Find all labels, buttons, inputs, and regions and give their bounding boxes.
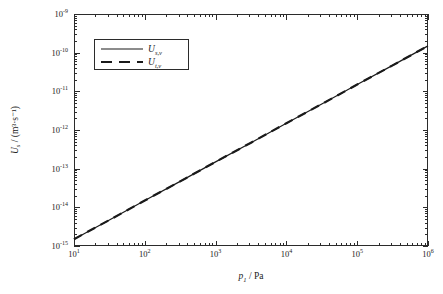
x-minor-tick <box>341 243 342 246</box>
x-minor-tick <box>129 243 130 246</box>
x-tick-label: 103 <box>210 250 222 259</box>
x-minor-tick <box>407 243 408 246</box>
x-tick-label: 105 <box>351 250 363 259</box>
y-minor-tick <box>74 139 77 140</box>
x-minor-tick-top <box>354 14 355 17</box>
y-minor-tick <box>74 209 77 210</box>
legend-swatch-solid <box>101 44 143 54</box>
y-minor-tick <box>74 211 77 212</box>
x-minor-tick-top <box>417 14 418 17</box>
y-minor-tick-right <box>425 211 428 212</box>
y-minor-tick-right <box>425 112 428 113</box>
x-minor-tick-top <box>200 14 201 17</box>
x-minor-tick-top <box>400 14 401 17</box>
x-minor-tick-top <box>129 14 130 17</box>
x-major-tick-top <box>216 14 217 20</box>
y-minor-tick-right <box>425 170 428 171</box>
y-minor-tick <box>74 175 77 176</box>
y-minor-tick-right <box>425 61 428 62</box>
x-minor-tick-top <box>179 14 180 17</box>
x-minor-tick <box>117 243 118 246</box>
x-minor-tick-top <box>320 14 321 17</box>
y-minor-tick-right <box>425 29 428 30</box>
figure-canvas: 101102103104105106 10-910-1010-1110-1210… <box>0 0 443 294</box>
x-minor-tick-top <box>142 14 143 17</box>
y-minor-tick-right <box>425 34 428 35</box>
x-minor-tick-top <box>95 14 96 17</box>
y-minor-tick <box>74 134 77 135</box>
y-minor-tick <box>74 95 77 96</box>
y-tick-label: 10-13 <box>30 164 68 173</box>
x-axis-symbol: p1 <box>239 271 247 281</box>
x-minor-tick-top <box>258 14 259 17</box>
y-major-tick-right <box>423 246 429 247</box>
y-major-tick-right <box>423 14 429 15</box>
y-minor-tick-right <box>425 103 428 104</box>
y-major-tick <box>74 91 80 92</box>
y-minor-tick-right <box>425 177 428 178</box>
x-tick-label: 102 <box>139 250 151 259</box>
y-minor-tick <box>74 136 77 137</box>
y-minor-tick-right <box>425 132 428 133</box>
x-minor-tick-top <box>123 14 124 17</box>
x-minor-tick <box>166 243 167 246</box>
y-axis-symbol: Us <box>10 145 20 154</box>
y-minor-tick <box>74 56 77 57</box>
y-minor-tick-right <box>425 18 428 19</box>
x-minor-tick <box>108 243 109 246</box>
y-minor-tick-right <box>425 172 428 173</box>
x-minor-tick <box>187 243 188 246</box>
x-major-tick-top <box>428 14 429 20</box>
y-minor-tick <box>74 112 77 113</box>
y-minor-tick <box>74 228 77 229</box>
y-tick-label: 10-14 <box>30 203 68 212</box>
y-minor-tick-right <box>425 73 428 74</box>
y-axis-title: Us / (m³·s⁻¹) <box>9 106 20 154</box>
y-major-tick <box>74 246 80 247</box>
x-minor-tick-top <box>205 14 206 17</box>
x-minor-tick <box>354 243 355 246</box>
y-major-tick-right <box>423 91 429 92</box>
y-minor-tick <box>74 196 77 197</box>
x-minor-tick-top <box>346 14 347 17</box>
y-major-tick <box>74 14 80 15</box>
x-minor-tick-top <box>336 14 337 17</box>
y-minor-tick-right <box>425 145 428 146</box>
x-minor-tick <box>280 243 281 246</box>
y-minor-tick-right <box>425 41 428 42</box>
y-tick-label: 10-15 <box>30 242 68 251</box>
x-minor-tick <box>200 243 201 246</box>
legend-item-0: Us,v <box>95 42 188 56</box>
x-minor-tick <box>336 243 337 246</box>
x-minor-tick-top <box>329 14 330 17</box>
y-minor-tick <box>74 150 77 151</box>
y-minor-tick-right <box>425 216 428 217</box>
y-minor-tick <box>74 180 77 181</box>
x-major-tick <box>428 241 429 247</box>
x-tick-label: 104 <box>281 250 293 259</box>
y-minor-tick <box>74 132 77 133</box>
y-minor-tick-right <box>425 118 428 119</box>
y-minor-tick-right <box>425 223 428 224</box>
x-minor-tick-top <box>407 14 408 17</box>
x-major-tick-top <box>357 14 358 20</box>
y-minor-tick <box>74 68 77 69</box>
x-minor-tick-top <box>237 14 238 17</box>
y-minor-tick-right <box>425 150 428 151</box>
legend-label-0: Us,v <box>148 44 162 54</box>
x-minor-tick <box>400 243 401 246</box>
y-minor-tick-right <box>425 16 428 17</box>
y-minor-tick-right <box>425 26 428 27</box>
y-minor-tick-right <box>425 209 428 210</box>
y-minor-tick <box>74 219 77 220</box>
x-minor-tick <box>346 243 347 246</box>
y-minor-tick <box>74 213 77 214</box>
y-minor-tick-right <box>425 175 428 176</box>
y-minor-tick <box>74 54 77 55</box>
x-minor-tick-top <box>391 14 392 17</box>
y-minor-tick-right <box>425 100 428 101</box>
x-minor-tick-top <box>138 14 139 17</box>
y-minor-tick-right <box>425 139 428 140</box>
x-minor-tick-top <box>271 14 272 17</box>
x-major-tick-top <box>286 14 287 20</box>
